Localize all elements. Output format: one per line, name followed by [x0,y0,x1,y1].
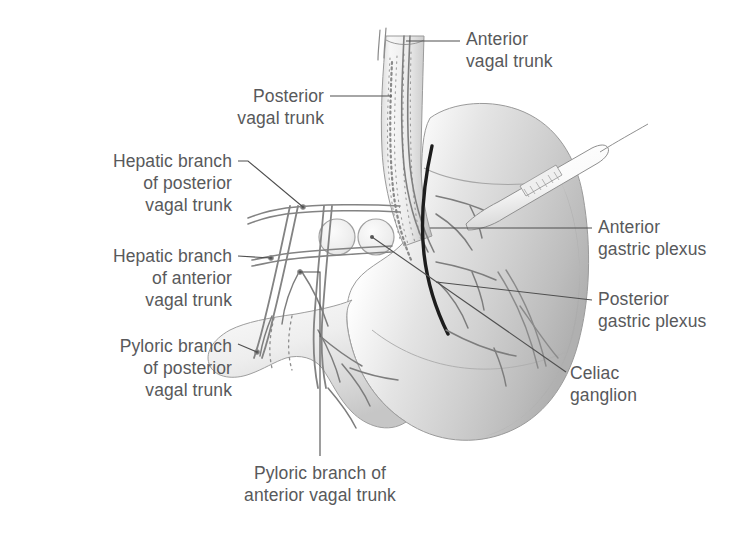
label-pyloric-branch-of-posterior-vagal-trunk: Pyloric branch of posterior vagal trunk [22,335,232,401]
label-posterior-vagal-trunk: Posterior vagal trunk [144,85,324,129]
vagal-fiber-upper-1 [378,30,380,60]
anatomical-figure: Anterior vagal trunk Posterior vagal tru… [0,0,756,538]
label-anterior-gastric-plexus: Anterior gastric plexus [598,216,753,260]
label-posterior-gastric-plexus: Posterior gastric plexus [598,288,753,332]
label-celiac-ganglion: Celiac ganglion [570,362,730,406]
label-hepatic-branch-of-posterior-vagal-trunk: Hepatic branch of posterior vagal trunk [22,150,232,216]
celiac-ganglion-right [358,219,394,255]
label-anterior-vagal-trunk: Anterior vagal trunk [466,28,656,72]
leader-hepatic-posterior [238,161,303,207]
label-hepatic-branch-of-anterior-vagal-trunk: Hepatic branch of anterior vagal trunk [22,245,232,311]
label-pyloric-branch-of-anterior-vagal-trunk: Pyloric branch of anterior vagal trunk [195,462,445,506]
probe-shaft-edge [600,124,648,152]
